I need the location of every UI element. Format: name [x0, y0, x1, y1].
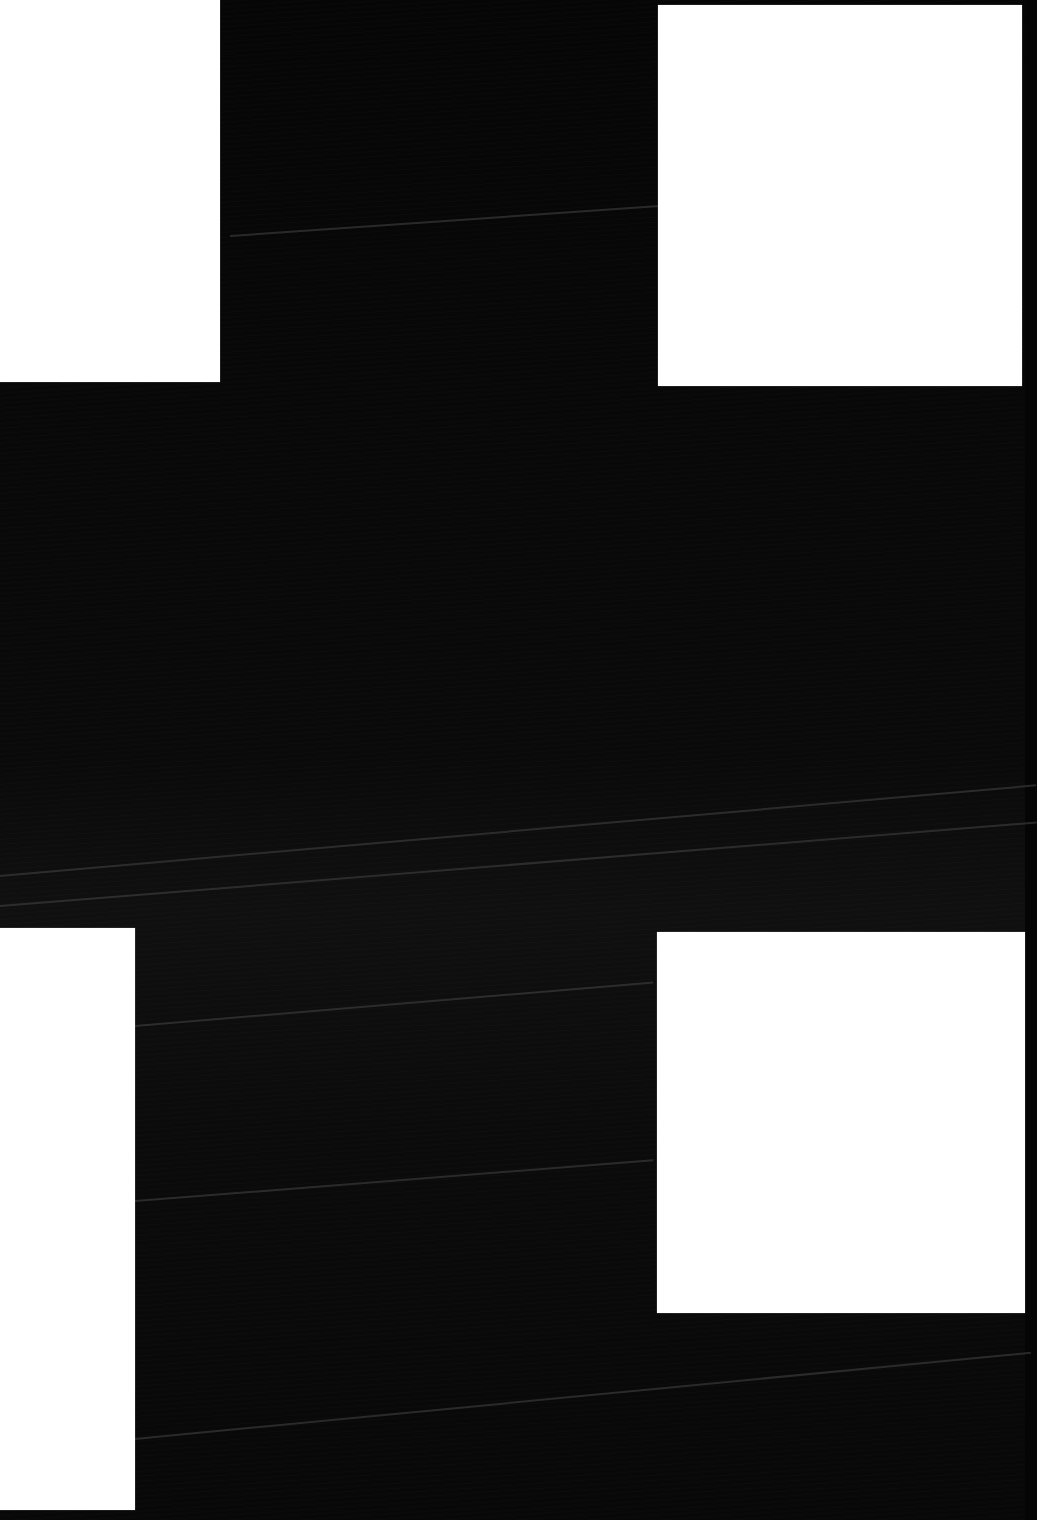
- white-panel-bottom-right: [657, 932, 1025, 1313]
- white-panel-bottom-left: [0, 928, 135, 1510]
- white-panel-top-right: [658, 5, 1022, 386]
- white-panel-top-left: [0, 0, 220, 382]
